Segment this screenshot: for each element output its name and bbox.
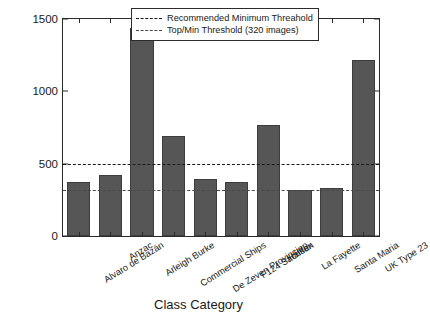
bar (162, 136, 185, 236)
x-axis-tick-mark (332, 232, 333, 236)
legend-item: Top/Min Threshold (320 images) (136, 25, 313, 36)
y-axis-tick-mark (63, 91, 68, 92)
x-axis-tick-mark (363, 232, 364, 236)
x-axis-tick-mark (142, 232, 143, 236)
y-axis-tick-label: 500 (39, 158, 58, 170)
x-axis-tick-mark (237, 232, 238, 236)
bar (130, 28, 153, 236)
x-axis-tick-mark (332, 19, 333, 23)
x-axis-tick-mark (79, 232, 80, 236)
bar (194, 179, 217, 236)
legend-item: Recommended Minimum Threahold (136, 13, 313, 24)
bar (352, 60, 375, 236)
x-axis-tick-mark (110, 232, 111, 236)
x-axis-tick-mark (79, 19, 80, 23)
y-axis-tick-label: 1500 (32, 13, 58, 25)
legend-dashed-line-icon (136, 18, 162, 19)
plot-area: 050010001500 (62, 18, 380, 237)
x-axis-tick-mark (268, 232, 269, 236)
x-axis-tick-mark (363, 19, 364, 23)
x-axis-tick-mark (205, 232, 206, 236)
bar (320, 188, 343, 236)
x-axis-tick-mark (110, 19, 111, 23)
bar (99, 175, 122, 236)
y-axis-tick-label: 0 (52, 230, 58, 242)
x-axis-title: Class Category (0, 297, 397, 312)
y-axis-tick-mark (63, 19, 68, 20)
x-axis-tick-mark (300, 232, 301, 236)
legend-item-label: Recommended Minimum Threahold (167, 13, 313, 24)
legend: Recommended Minimum ThreaholdTop/Min Thr… (131, 8, 319, 41)
x-axis-tick-labels: Alvaro de BazánAnzacArleigh BurkeCommerc… (62, 237, 380, 295)
y-axis-tick-mark (374, 19, 379, 20)
x-axis-tick-label: Alvaro de Bazán (102, 240, 165, 285)
legend-dashed-line-icon (136, 30, 162, 31)
x-axis-tick-mark (174, 232, 175, 236)
y-axis-tick-label: 1000 (32, 85, 58, 97)
threshold-line-top-min-threshold (63, 190, 379, 191)
threshold-line-recommended-minimum-threshold (63, 164, 379, 165)
bar (288, 190, 311, 236)
bar (257, 125, 280, 236)
legend-item-label: Top/Min Threshold (320 images) (167, 25, 299, 36)
